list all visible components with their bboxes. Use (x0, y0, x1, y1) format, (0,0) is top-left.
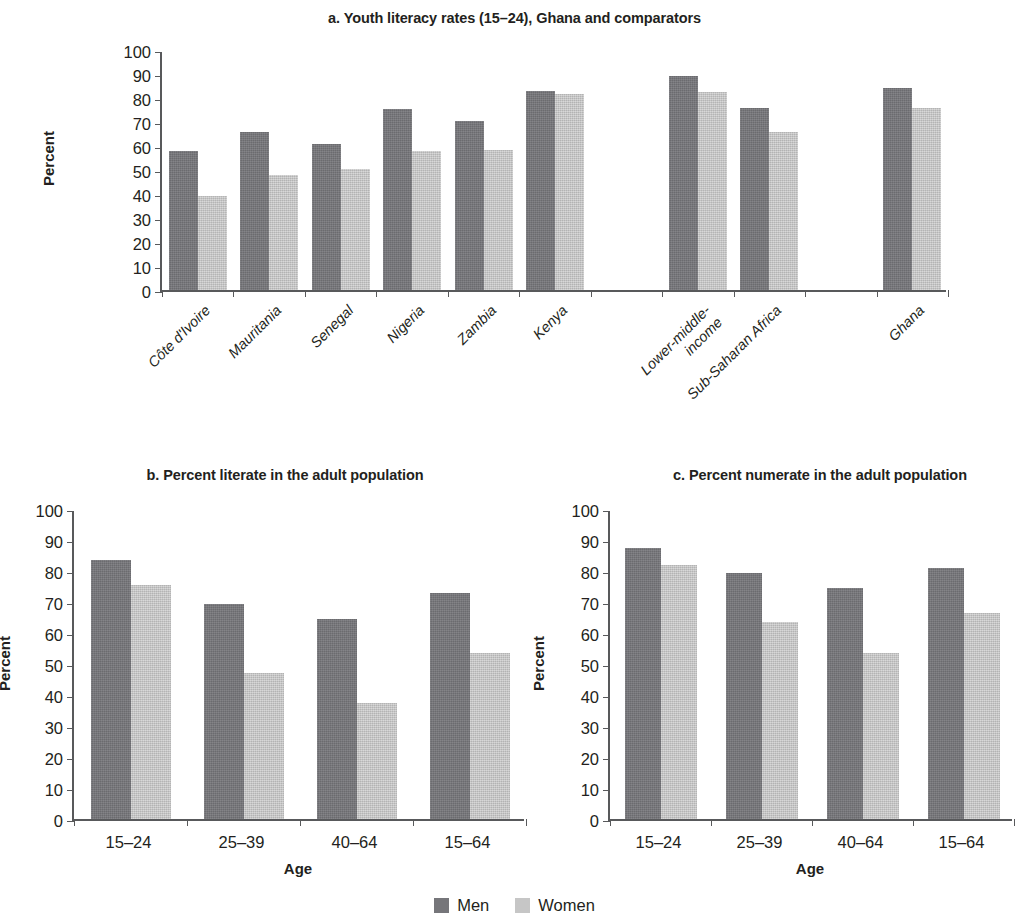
y-axis-tick (155, 148, 162, 149)
bar-women-6 (698, 92, 727, 290)
bar-women-4 (484, 150, 513, 290)
y-axis-tick-label: 0 (590, 813, 599, 830)
bar-women-1 (269, 175, 298, 290)
panel-b-plot-area: 0102030405060708090100 (72, 511, 524, 821)
x-axis-tick (413, 819, 414, 826)
bar-women-1 (244, 673, 284, 819)
x-axis-tick (305, 290, 306, 297)
legend-item-women[interactable]: Women (515, 896, 595, 915)
bar-men-6 (669, 76, 698, 290)
y-axis-tick (603, 666, 610, 667)
y-axis-tick-label: 10 (45, 782, 63, 799)
y-axis-tick (67, 728, 74, 729)
figure-legend: MenWomen (0, 896, 1029, 915)
legend-item-men[interactable]: Men (434, 896, 489, 915)
y-axis-tick-label: 70 (133, 116, 151, 133)
x-axis-tick (162, 290, 163, 297)
bar-women-3 (412, 151, 441, 290)
x-axis-tick (610, 819, 611, 826)
figure-root: a. Youth literacy rates (15–24), Ghana a… (0, 0, 1029, 921)
legend-swatch-women-icon (515, 898, 530, 913)
y-axis-tick-label: 100 (123, 44, 151, 61)
y-axis-tick (603, 821, 610, 822)
y-axis-tick-label: 30 (133, 212, 151, 229)
bar-women-3 (964, 613, 1000, 819)
x-axis-category-label: 15–24 (636, 833, 682, 852)
y-axis-tick-label: 10 (581, 782, 599, 799)
y-axis-tick (603, 573, 610, 574)
bar-men-2 (312, 144, 341, 290)
y-axis-tick (155, 52, 162, 53)
bar-men-7 (740, 108, 769, 290)
x-axis-tick (233, 290, 234, 297)
y-axis-tick-label: 20 (133, 236, 151, 253)
x-axis-tick (74, 819, 75, 826)
x-axis-tick (913, 819, 914, 826)
y-axis-tick-label: 70 (45, 596, 63, 613)
panel-b-title: b. Percent literate in the adult populat… (10, 467, 560, 483)
x-axis-tick (1014, 819, 1015, 826)
bar-men-5 (526, 91, 555, 290)
bar-women-5 (555, 94, 584, 290)
bar-women-8 (912, 108, 941, 290)
x-axis-category-label: 15–64 (939, 833, 985, 852)
y-axis-tick (67, 666, 74, 667)
y-axis-tick-label: 80 (133, 92, 151, 109)
x-axis-tick (187, 819, 188, 826)
x-axis-tick (812, 819, 813, 826)
bar-men-1 (204, 604, 244, 819)
bar-men-1 (726, 573, 762, 819)
x-axis-category-label: 40–64 (838, 833, 884, 852)
bar-women-7 (769, 132, 798, 290)
y-axis-tick-label: 80 (45, 565, 63, 582)
y-axis-tick (67, 542, 74, 543)
bar-men-3 (430, 593, 470, 819)
x-axis-tick (300, 819, 301, 826)
y-axis-tick (67, 759, 74, 760)
y-axis-tick (603, 728, 610, 729)
bar-men-8 (883, 88, 912, 290)
y-axis-tick (155, 76, 162, 77)
y-axis-tick-label: 40 (133, 188, 151, 205)
bar-women-2 (357, 703, 397, 819)
y-axis-tick-label: 20 (581, 751, 599, 768)
y-axis-tick (603, 511, 610, 512)
y-axis-tick-label: 40 (45, 689, 63, 706)
x-axis-tick (591, 290, 592, 297)
y-axis-tick (155, 124, 162, 125)
y-axis-tick (603, 697, 610, 698)
y-axis-tick (155, 100, 162, 101)
y-axis-tick (67, 697, 74, 698)
y-axis-tick-label: 30 (45, 720, 63, 737)
y-axis-tick (67, 604, 74, 605)
legend-swatch-men-icon (434, 898, 449, 913)
bar-men-0 (91, 560, 131, 819)
y-axis-tick-label: 0 (142, 284, 151, 301)
y-axis-tick (155, 244, 162, 245)
y-axis-tick-label: 80 (581, 565, 599, 582)
bar-men-3 (383, 109, 412, 290)
bar-men-3 (928, 568, 964, 819)
y-axis-tick-label: 70 (581, 596, 599, 613)
x-axis-category-label: 15–64 (445, 833, 491, 852)
x-axis-category-label: 25–39 (219, 833, 265, 852)
legend-label-women: Women (538, 896, 595, 915)
bar-women-2 (341, 169, 370, 290)
bar-women-0 (198, 196, 227, 290)
panel-c-plot-area: 0102030405060708090100 (608, 511, 1012, 821)
x-axis-tick (734, 290, 735, 297)
y-axis-tick-label: 30 (581, 720, 599, 737)
y-axis-tick-label: 60 (45, 627, 63, 644)
y-axis-tick-label: 40 (581, 689, 599, 706)
y-axis-tick (155, 196, 162, 197)
y-axis-tick (155, 268, 162, 269)
y-axis-tick (155, 292, 162, 293)
y-axis-tick (155, 220, 162, 221)
y-axis-tick-label: 50 (45, 658, 63, 675)
x-axis-tick (376, 290, 377, 297)
y-axis-tick (67, 821, 74, 822)
y-axis-tick (67, 573, 74, 574)
x-axis-tick (711, 819, 712, 826)
y-axis-tick-label: 50 (581, 658, 599, 675)
panel-a-plot-area: 0102030405060708090100 (160, 52, 946, 292)
